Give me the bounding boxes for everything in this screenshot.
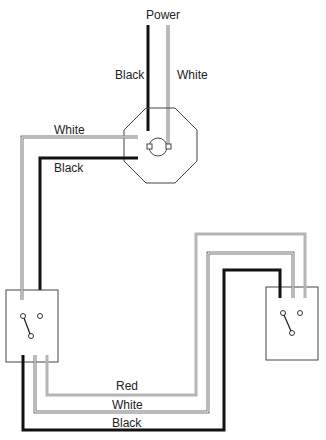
black-wire-label: Black (112, 416, 142, 430)
white-wire-label: White (112, 398, 143, 412)
power-label: Power (146, 8, 180, 22)
black-wire (23, 270, 280, 430)
power-black-label: Black (115, 68, 145, 82)
fixture-black-label: Black (54, 161, 84, 175)
terminal-right (166, 144, 171, 149)
switch-left-box (6, 290, 58, 362)
fixture-black-wire (40, 158, 138, 300)
wiring-diagram: Power Black White White Black (0, 0, 326, 440)
white-traveler-wire (35, 253, 293, 412)
red-wire-label: Red (116, 379, 138, 393)
terminal-left (147, 144, 152, 149)
fixture-white-label: White (54, 123, 85, 137)
power-white-label: White (177, 68, 208, 82)
